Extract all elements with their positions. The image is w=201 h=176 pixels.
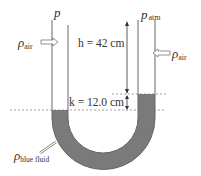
k-arrow-head-bottom — [125, 106, 129, 110]
right-air-arrow-icon — [153, 49, 170, 57]
rho-air-left-label: ρair — [17, 35, 33, 51]
h-arrow-head-top — [125, 21, 129, 26]
p-left-label: p — [53, 5, 61, 20]
manometer-diagram: p patm ρair ρair h = 42 cm k = 12.0 cm ρ… — [0, 0, 201, 176]
h-arrow-head-bottom — [125, 89, 129, 94]
left-air-arrow-icon — [41, 38, 58, 46]
rho-air-right-label: ρair — [171, 46, 187, 62]
p-atm-label: patm — [140, 7, 161, 22]
k-arrow-head-top — [125, 95, 129, 99]
k-value-label: k = 12.0 cm — [69, 96, 124, 108]
h-value-label: h = 42 cm — [78, 37, 124, 49]
